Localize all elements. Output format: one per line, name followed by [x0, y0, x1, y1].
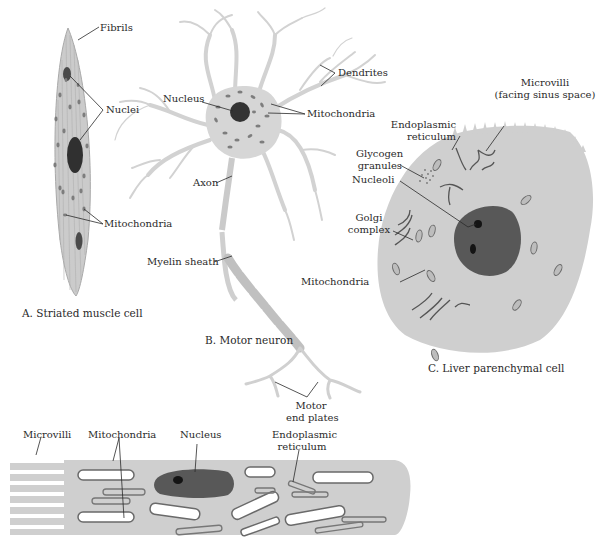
label-golgi-complex: Golgi complex — [344, 212, 394, 236]
label-intestinal-er-line2: reticulum — [272, 441, 332, 453]
label-golgi-line2: complex — [344, 224, 394, 236]
label-intestinal-microvilli: Microvilli — [23, 429, 71, 441]
liver-nucleolus-2 — [470, 244, 476, 254]
liver-nucleus — [454, 206, 521, 276]
label-intestinal-er: Endoplasmic reticulum — [272, 429, 332, 453]
label-nuclei: Nuclei — [106, 104, 139, 116]
label-liver-er: Endoplasmic reticulum — [376, 119, 456, 143]
label-intestinal-mitochondria: Mitochondria — [88, 429, 156, 441]
neuron-nucleus — [230, 102, 250, 122]
intestinal-nucleolus — [173, 476, 183, 484]
label-motor-end-plates: Motor end plates — [286, 400, 336, 424]
caption-striated-muscle-cell: A. Striated muscle cell — [22, 307, 143, 319]
label-intestinal-er-line1: Endoplasmic — [272, 429, 332, 441]
label-dendrites: Dendrites — [338, 67, 388, 79]
label-axon: Axon — [193, 177, 218, 189]
caption-liver-parenchymal-cell: C. Liver parenchymal cell — [428, 362, 564, 374]
label-neuron-nucleus: Nucleus — [163, 93, 204, 105]
label-myelin-sheath: Myelin sheath — [147, 256, 219, 268]
label-liver-er-line1: Endoplasmic — [376, 119, 456, 131]
label-nucleoli: Nucleoli — [352, 174, 394, 186]
label-liver-microvilli-line1: Microvilli — [490, 77, 600, 89]
label-muscle-mitochondria: Mitochondria — [104, 218, 172, 230]
label-motor-end-plates-line2: end plates — [286, 412, 336, 424]
caption-motor-neuron: B. Motor neuron — [205, 334, 293, 346]
muscle-cell — [53, 27, 103, 296]
label-liver-er-line2: reticulum — [376, 131, 456, 143]
label-neuron-mitochondria: Mitochondria — [307, 108, 375, 120]
liver-cell — [377, 121, 593, 362]
intestinal-cell — [6, 437, 410, 537]
label-liver-microvilli-line2: (facing sinus space) — [490, 89, 600, 101]
label-motor-end-plates-line1: Motor — [286, 400, 336, 412]
intestinal-nucleus — [154, 469, 234, 498]
label-glycogen-line2: granules — [356, 160, 402, 172]
muscle-nucleus-3 — [76, 232, 83, 250]
label-glycogen-granules: Glycogen granules — [356, 148, 402, 172]
label-liver-mitochondria: Mitochondria — [301, 276, 369, 288]
label-liver-microvilli: Microvilli (facing sinus space) — [490, 77, 600, 101]
label-intestinal-nucleus: Nucleus — [180, 429, 221, 441]
label-golgi-line1: Golgi — [344, 212, 394, 224]
muscle-nucleus-2 — [67, 137, 83, 173]
label-fibrils: Fibrils — [100, 22, 133, 34]
label-glycogen-line1: Glycogen — [356, 148, 402, 160]
